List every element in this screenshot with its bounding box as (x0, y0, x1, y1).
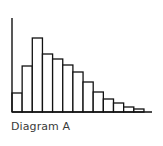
bar-2 (22, 66, 32, 112)
bar-4 (42, 54, 52, 112)
bar-9 (93, 92, 103, 112)
chart-caption: Diagram A (11, 120, 70, 133)
bar-5 (53, 59, 63, 112)
bar-10 (103, 99, 113, 112)
bar-6 (63, 65, 73, 112)
bars-group (12, 38, 144, 112)
bar-8 (83, 82, 93, 112)
bar-11 (114, 103, 124, 112)
bar-12 (124, 107, 134, 112)
histogram-chart: Diagram A (0, 0, 163, 146)
bar-3 (32, 38, 42, 112)
bar-7 (73, 72, 83, 112)
bar-1 (12, 93, 22, 112)
